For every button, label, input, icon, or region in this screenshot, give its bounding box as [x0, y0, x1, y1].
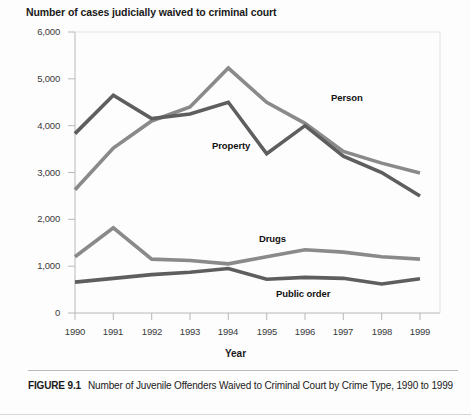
- series-label-public-order: Public order: [276, 288, 330, 299]
- ytick-label-3000: 3,000: [14, 167, 60, 178]
- ytick-label-6000: 6,000: [14, 26, 60, 37]
- ytick-label-2000: 2,000: [14, 213, 60, 224]
- ytick-label-1000: 1,000: [14, 260, 60, 271]
- line-chart-plot-area: [0, 0, 471, 345]
- series-label-person: Person: [331, 92, 363, 103]
- series-label-property: Property: [212, 140, 250, 151]
- plot-frame: [75, 32, 440, 313]
- y-axis-ticks: [68, 32, 75, 313]
- figure-caption: FIGURE 9.1Number of Juvenile Offenders W…: [28, 379, 460, 393]
- xtick-label-1997: 1997: [321, 326, 365, 337]
- figure-container: Number of cases judicially waived to cri…: [0, 0, 471, 419]
- ytick-label-4000: 4,000: [14, 120, 60, 131]
- page-bottom-divider: [0, 414, 471, 415]
- ytick-label-0: 0: [14, 307, 60, 318]
- xtick-label-1991: 1991: [91, 326, 135, 337]
- series-label-drugs: Drugs: [259, 233, 286, 244]
- x-axis-ticks: [75, 313, 420, 320]
- caption-divider: [28, 370, 458, 371]
- ytick-label-5000: 5,000: [14, 73, 60, 84]
- figure-caption-text: Number of Juvenile Offenders Waived to C…: [88, 380, 453, 391]
- series-line-public-order: [75, 269, 420, 284]
- xtick-label-1994: 1994: [206, 326, 250, 337]
- x-axis-title: Year: [0, 348, 471, 359]
- series-line-drugs: [75, 228, 420, 264]
- xtick-label-1999: 1999: [398, 326, 442, 337]
- figure-number: FIGURE 9.1: [28, 380, 81, 391]
